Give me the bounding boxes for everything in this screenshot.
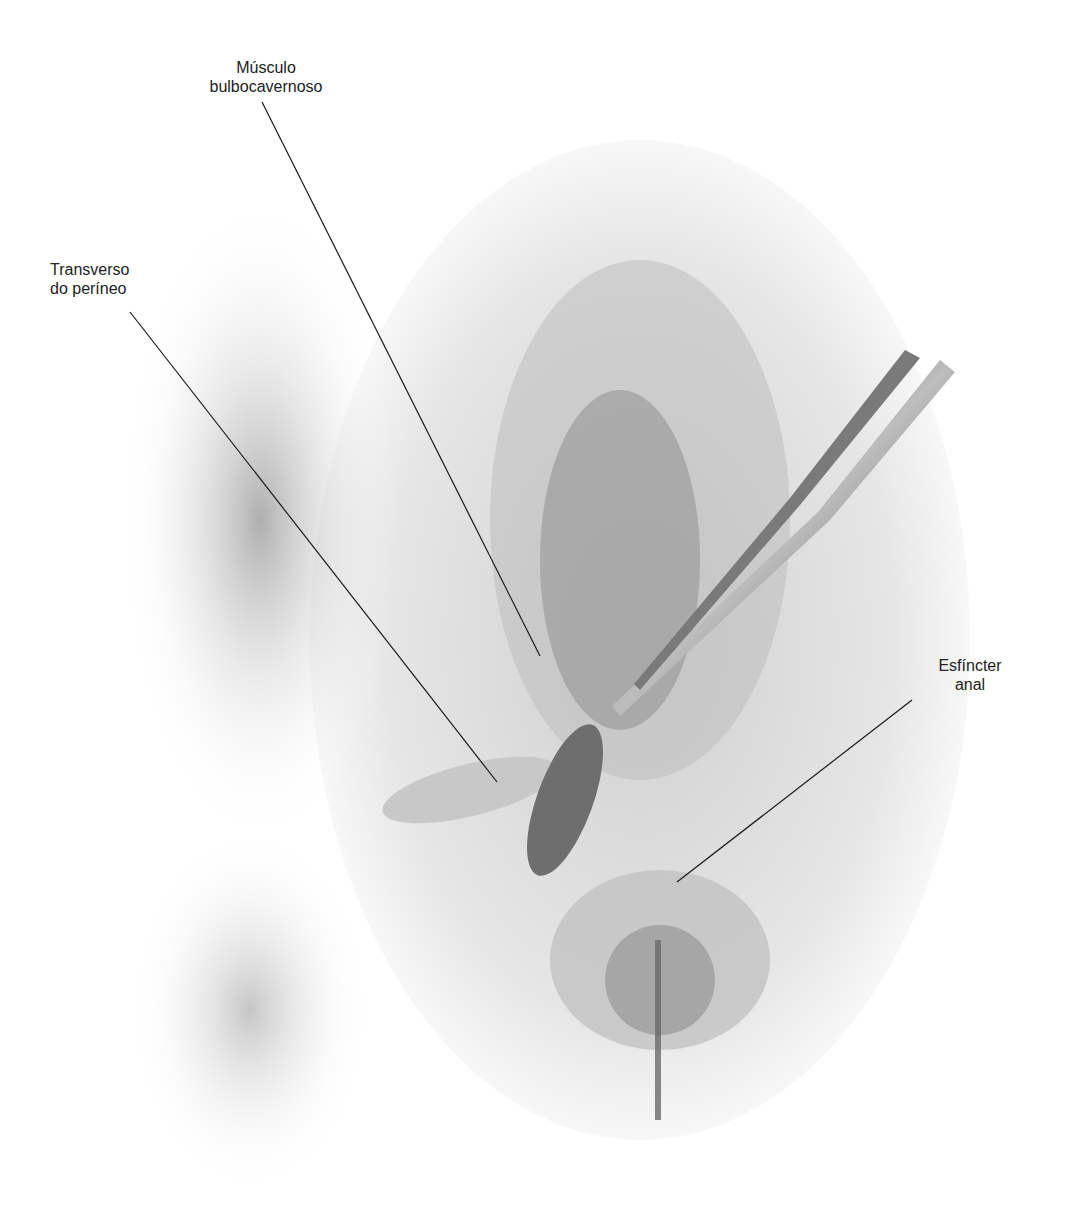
label-line: Transverso xyxy=(50,260,150,279)
label-musculo-bulbocavernoso: Músculo bulbocavernoso xyxy=(196,58,336,96)
label-line: Músculo xyxy=(196,58,336,77)
label-esfincter-anal: Esfíncter anal xyxy=(920,656,1020,694)
label-line: Esfíncter xyxy=(920,656,1020,675)
label-line: bulbocavernoso xyxy=(196,77,336,96)
schematic-regions xyxy=(120,140,970,1190)
label-line: anal xyxy=(920,675,1020,694)
label-transverso-do-perineo: Transverso do períneo xyxy=(50,260,150,298)
anatomical-illustration xyxy=(0,0,1067,1213)
label-line: do períneo xyxy=(50,279,150,298)
figure-canvas: Músculo bulbocavernoso Transverso do per… xyxy=(0,0,1067,1213)
